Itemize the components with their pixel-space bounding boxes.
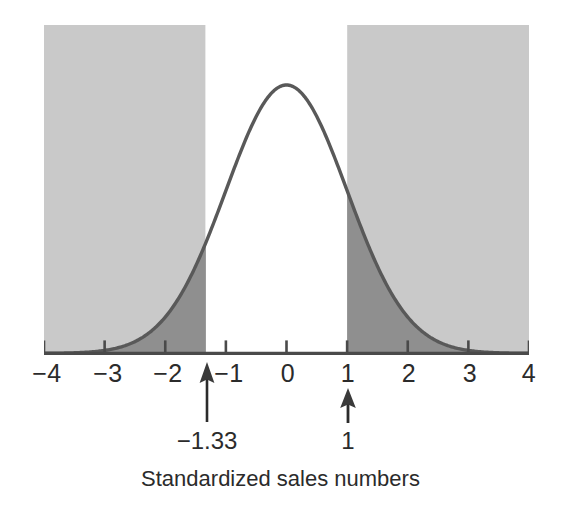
tick-label-2: 2 xyxy=(379,358,439,388)
tick-label-0: 0 xyxy=(258,358,318,388)
x-axis-tick-labels: −4 −3 −2 −1 0 1 2 3 4 xyxy=(0,358,561,392)
lower-cutoff-arrow-icon xyxy=(193,361,221,423)
tick-label-neg4: −4 xyxy=(17,358,77,388)
chart-plot-area xyxy=(44,25,529,355)
tick-label-3: 3 xyxy=(440,358,500,388)
tick-label-neg2: −2 xyxy=(138,358,198,388)
distribution-chart-svg xyxy=(44,25,529,355)
lower-cutoff-value-label: −1.33 xyxy=(127,427,287,455)
normal-distribution-figure: −4 −3 −2 −1 0 1 2 3 4 −1.33 1 Standardiz… xyxy=(0,0,561,507)
upper-cutoff-arrow-icon xyxy=(334,388,362,424)
upper-cutoff-value-label: 1 xyxy=(268,427,428,455)
tick-label-1: 1 xyxy=(318,358,378,388)
chart-caption: Standardized sales numbers xyxy=(0,465,561,493)
tick-label-4: 4 xyxy=(499,358,559,388)
tick-label-neg3: −3 xyxy=(78,358,138,388)
